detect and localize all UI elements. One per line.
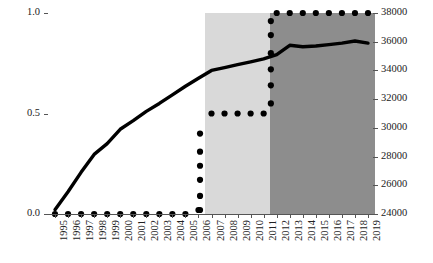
x-axis-tick [264, 214, 265, 218]
right-axis-tick [373, 214, 378, 215]
dot-marker [268, 82, 274, 88]
dot-marker [268, 32, 274, 38]
x-axis-tick-label: 1999 [111, 220, 122, 241]
dot-marker [234, 110, 240, 116]
x-axis-tick [277, 214, 278, 218]
right-axis-tick-label: 36000 [381, 36, 407, 47]
dot-marker [326, 10, 332, 16]
x-axis-tick [120, 214, 121, 218]
x-axis-tick [251, 214, 252, 218]
x-axis-tick-label: 2013 [294, 220, 305, 241]
dotted-line-series [52, 10, 371, 217]
x-axis-tick-label: 2015 [320, 220, 331, 241]
right-axis-tick [373, 157, 378, 158]
dot-marker [268, 100, 274, 106]
x-axis-tick-label: 1997 [85, 220, 96, 241]
dot-marker [339, 10, 345, 16]
x-axis-tick-label: 2002 [150, 220, 161, 241]
dot-marker [352, 10, 358, 16]
left-axis-tick-label: 0.5 [2, 108, 40, 119]
dot-marker [313, 10, 319, 16]
right-axis-tick [373, 99, 378, 100]
dot-marker [268, 50, 274, 56]
x-axis-tick-label: 2011 [268, 220, 279, 241]
x-axis-tick-label: 2012 [281, 220, 292, 241]
x-axis-tick-label: 2001 [137, 220, 148, 241]
dot-marker [365, 10, 371, 16]
x-axis-tick-label: 2003 [163, 220, 174, 241]
solid-line-series [55, 41, 368, 210]
x-axis-tick-label: 1998 [98, 220, 109, 241]
x-axis-tick-label: 1995 [59, 220, 70, 241]
right-axis-tick-label: 30000 [381, 122, 407, 133]
left-axis-tick [44, 13, 48, 14]
dot-marker [197, 193, 203, 199]
x-axis-tick [172, 214, 173, 218]
x-axis-tick-label: 2017 [346, 220, 357, 241]
right-axis-tick-label: 28000 [381, 151, 407, 162]
x-axis-tick [185, 214, 186, 218]
x-axis-tick-label: 2005 [189, 220, 200, 241]
x-axis-tick [238, 214, 239, 218]
x-axis-tick [55, 214, 56, 218]
x-axis-tick-label: 2014 [307, 220, 318, 241]
x-axis-tick-label: 2019 [372, 220, 383, 241]
dot-marker [197, 131, 203, 137]
dot-marker [268, 18, 274, 24]
left-axis-tick-label: 0.0 [2, 208, 40, 219]
dot-marker [197, 149, 203, 155]
left-axis-tick-label: 1.0 [2, 7, 40, 18]
dot-marker [197, 177, 203, 183]
x-axis-tick-label: 1996 [72, 220, 83, 241]
left-axis-tick [44, 214, 48, 215]
x-axis-tick [198, 214, 199, 218]
dot-marker [274, 10, 280, 16]
x-axis-tick-label: 2006 [202, 220, 213, 241]
x-axis-tick-label: 2009 [242, 220, 253, 241]
series-layer [48, 13, 373, 214]
right-axis-tick-label: 34000 [381, 64, 407, 75]
x-axis-tick [368, 214, 369, 218]
x-axis-tick [303, 214, 304, 218]
x-axis-line [48, 214, 374, 215]
x-axis-tick [290, 214, 291, 218]
plot-area [48, 13, 373, 214]
x-axis-tick [342, 214, 343, 218]
right-axis-tick [373, 13, 378, 14]
dot-marker [221, 110, 227, 116]
dot-marker [287, 10, 293, 16]
x-axis-tick-label: 2010 [255, 220, 266, 241]
dot-marker [300, 10, 306, 16]
chart-container: 0.00.51.0 240002600028000300003200034000… [0, 0, 433, 263]
dot-marker [261, 110, 267, 116]
right-axis-tick-label: 38000 [381, 7, 407, 18]
x-axis-tick [94, 214, 95, 218]
x-axis-tick-label: 2008 [229, 220, 240, 241]
dot-marker [268, 66, 274, 72]
x-axis-tick-label: 2000 [124, 220, 135, 241]
x-axis-tick [212, 214, 213, 218]
x-axis-tick [133, 214, 134, 218]
x-axis-tick [355, 214, 356, 218]
dot-marker [197, 163, 203, 169]
x-axis-tick [159, 214, 160, 218]
x-axis-tick [316, 214, 317, 218]
x-axis-tick [225, 214, 226, 218]
right-axis-tick [373, 128, 378, 129]
x-axis-tick [146, 214, 147, 218]
right-axis-tick [373, 185, 378, 186]
right-axis-tick-label: 24000 [381, 208, 407, 219]
x-axis-tick [329, 214, 330, 218]
x-axis-tick [107, 214, 108, 218]
dot-marker [208, 110, 214, 116]
dot-marker [197, 207, 203, 213]
right-axis-tick-label: 26000 [381, 179, 407, 190]
x-axis-tick-label: 2016 [333, 220, 344, 241]
x-axis-tick [81, 214, 82, 218]
x-axis-tick [68, 214, 69, 218]
x-axis-tick-label: 2007 [216, 220, 227, 241]
left-axis-tick [44, 114, 48, 115]
right-axis-tick [373, 42, 378, 43]
dot-marker [248, 110, 254, 116]
x-axis-tick-label: 2018 [359, 220, 370, 241]
